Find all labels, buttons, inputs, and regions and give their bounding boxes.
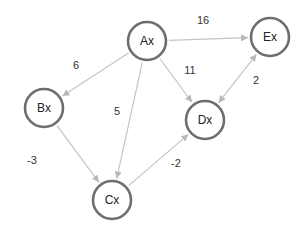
node-dx[interactable]: Dx — [186, 101, 224, 139]
node-label: Ex — [263, 30, 277, 44]
node-ex[interactable]: Ex — [251, 18, 289, 56]
node-ax[interactable]: Ax — [128, 22, 166, 60]
edge-weight-label: 11 — [184, 64, 195, 76]
node-bx[interactable]: Bx — [25, 89, 63, 127]
edges-layer — [57, 38, 256, 186]
edge-weight-label: 6 — [73, 59, 79, 71]
edge-bx-cx — [57, 126, 99, 183]
node-label: Dx — [198, 113, 213, 127]
edge-weight-label: 2 — [253, 74, 259, 86]
edge-weight-label: -2 — [171, 157, 181, 169]
edge-ax-ex — [169, 38, 248, 41]
nodes-layer: AxBxCxDxEx — [25, 18, 289, 219]
node-label: Bx — [37, 101, 51, 115]
edge-ex-dx — [219, 54, 257, 102]
edge-ax-cx — [117, 62, 143, 178]
node-cx[interactable]: Cx — [93, 181, 131, 219]
graph-diagram: 1661152-3-2 AxBxCxDxEx — [0, 0, 307, 237]
node-label: Cx — [105, 193, 120, 207]
edge-weight-label: 5 — [114, 105, 120, 117]
edge-weight-label: 16 — [197, 14, 209, 26]
node-label: Ax — [140, 34, 154, 48]
edge-weight-label: -3 — [27, 154, 37, 166]
